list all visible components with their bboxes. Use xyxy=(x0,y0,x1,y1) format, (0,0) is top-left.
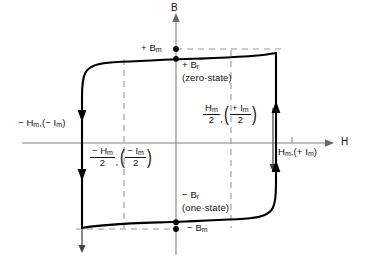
label-h-negative-half: − Hm 2 , ( − Im 2 ) xyxy=(90,146,153,168)
fraction-i-negative-half-numerator-sub: m xyxy=(138,149,144,156)
label-h-negative-full: − Hm,(− Im) xyxy=(18,118,65,129)
fraction-i-positive-half-numerator: + Im xyxy=(230,103,251,114)
label-b-max-positive: + Bm xyxy=(141,43,162,54)
h-axis-label: H xyxy=(341,136,348,148)
label-b-remanent-positive-subscript: r xyxy=(197,63,199,70)
fraction-i-positive-half-denominator: 2 xyxy=(230,114,251,125)
curve-arrow-left-down xyxy=(78,110,87,122)
fraction-i-negative-half-denominator: 2 xyxy=(125,157,146,168)
paren-open-left-half: ( xyxy=(119,148,124,166)
fraction-h-positive-half-numerator-sub: m xyxy=(212,106,218,113)
label-zero-state: (zero·state) xyxy=(182,73,232,84)
b-axis-label: B xyxy=(171,2,178,14)
fraction-h-negative-half-numerator: − Hm xyxy=(90,146,115,157)
fraction-h-positive-half-numerator: Hm xyxy=(203,103,220,114)
dot-b-max-positive xyxy=(173,46,179,52)
fraction-i-negative-half-numerator: − Im xyxy=(125,146,146,157)
hysteresis-curve-group xyxy=(82,53,276,228)
hysteresis-loop-svg xyxy=(0,0,370,261)
fraction-h-negative-half-numerator-sub: m xyxy=(107,149,113,156)
label-b-max-negative: − Bm xyxy=(187,223,208,234)
guide-line-h-negative-full-arrow xyxy=(78,245,85,253)
paren-open-right-half: ( xyxy=(224,105,229,123)
label-h-positive-half-comma: , xyxy=(220,113,224,125)
paren-close-left-half: ) xyxy=(147,148,152,166)
label-b-max-negative-subscript: m xyxy=(202,226,208,233)
curve-arrow-left-down-lower xyxy=(78,169,87,181)
label-h-negative-half-comma: , xyxy=(115,156,119,168)
label-h-positive-half: Hm 2 , ( + Im 2 ) xyxy=(203,103,257,125)
hysteresis-loop-figure: B H + Bm + Br (zero·state) − Br (one·sta… xyxy=(0,0,370,261)
label-b-max-positive-subscript: m xyxy=(156,46,162,53)
label-h-negative-full-close: ) xyxy=(62,117,65,128)
fraction-i-negative-half: − Im 2 xyxy=(125,146,146,168)
label-b-remanent-negative-subscript: r xyxy=(197,193,199,200)
label-h-negative-full-current: ,(− I xyxy=(39,117,56,128)
b-axis-arrowhead xyxy=(172,13,180,22)
fraction-i-positive-half-numerator-sub: m xyxy=(243,106,249,113)
label-b-remanent-positive: + Br xyxy=(182,60,199,71)
fraction-h-negative-half-denominator: 2 xyxy=(90,157,115,168)
fraction-h-positive-half-denominator: 2 xyxy=(203,114,220,125)
label-h-positive-full: Hm,(+ Im) xyxy=(278,147,317,158)
curve-upper-branch xyxy=(82,53,276,228)
fraction-i-positive-half: + Im 2 xyxy=(230,103,251,125)
label-b-remanent-negative: − Br xyxy=(182,190,199,201)
label-h-positive-full-close: ) xyxy=(314,146,317,157)
h-axis-arrowhead xyxy=(325,139,334,147)
curve-lower-branch xyxy=(82,53,276,228)
dot-b-remanent-positive xyxy=(173,56,179,62)
label-h-positive-full-current: ,(+ I xyxy=(291,146,308,157)
paren-close-right-half: ) xyxy=(252,105,257,123)
fraction-h-positive-half: Hm 2 xyxy=(203,103,220,125)
label-one-state: (one·state) xyxy=(182,203,229,214)
dot-b-max-negative xyxy=(173,226,179,232)
fraction-h-negative-half: − Hm 2 xyxy=(90,146,115,168)
dot-b-remanent-negative xyxy=(173,219,179,225)
curve-arrow-right-up-lower xyxy=(272,101,281,113)
